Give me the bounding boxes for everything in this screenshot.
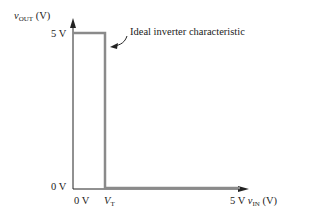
annotation-arrow-icon [110,43,118,49]
annotation-label: Ideal inverter characteristic [130,27,245,38]
y-axis-sub: OUT [19,15,33,23]
y-axis-arrow-icon [70,18,76,28]
y-axis-label: vOUT (V) [14,11,50,23]
x-tick-0v: 0 V [74,196,89,207]
x-tick-vt-sub: T [110,200,114,208]
y-tick-0v: 0 V [51,182,66,193]
x-tick-5v: 5 V [230,195,245,206]
x-tick-vt: VT [104,196,115,208]
x-axis-unit: (V) [262,195,277,206]
x-axis-sub: IN [252,200,259,208]
x-axis-label: 5 V vIN (V) [230,196,277,208]
y-tick-5v: 5 V [51,29,66,40]
ideal-inverter-curve [73,33,240,188]
y-axis-unit: (V) [36,10,51,21]
